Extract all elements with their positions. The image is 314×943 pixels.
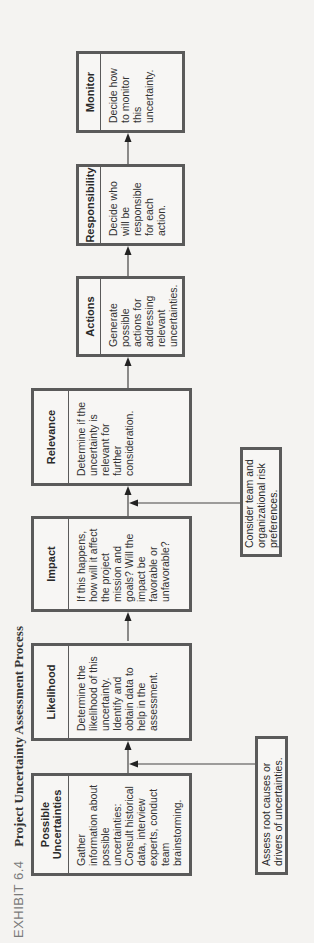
diagram-canvas: EXHIBIT 6.4 Project Uncertainty Assessme…	[0, 0, 314, 943]
arrowhead-6	[125, 133, 132, 142]
input-arrowhead-root-causes	[129, 761, 138, 768]
step-monitor: Monitor Decide how to monitor this uncer…	[76, 51, 185, 133]
arrowhead-2	[125, 612, 132, 621]
input-arrowhead-risk-preferences	[129, 500, 138, 507]
step-description: Determine the likelihood of this uncerta…	[69, 646, 159, 738]
step-description: Determine if the uncertainty is relevant…	[69, 391, 135, 483]
step-impact: Impact If this happens, how will it affe…	[31, 516, 192, 612]
input-root-causes: Assess root causes or drivers of uncerta…	[255, 736, 288, 875]
step-description: Decide who will be responsible for each …	[101, 167, 167, 243]
input-text: Consider team and organizational risk pr…	[243, 456, 279, 548]
step-heading: Responsibility	[79, 167, 101, 243]
step-heading: Impact	[34, 519, 69, 609]
step-description: Gather information about possible uncert…	[69, 776, 183, 873]
step-description: Generate possible actions for addressing…	[101, 279, 179, 354]
step-description: If this happens, how will it affect the …	[69, 519, 171, 609]
step-possible-uncertainties: Possible Uncertainties Gather informatio…	[31, 773, 192, 876]
step-heading: Monitor	[79, 54, 101, 130]
input-text: Assess root causes or drivers of uncerta…	[260, 745, 284, 866]
input-risk-preferences: Consider team and organizational risk pr…	[240, 447, 282, 557]
arrowhead-5	[125, 246, 132, 255]
step-likelihood: Likelihood Determine the likelihood of t…	[31, 643, 192, 741]
arrowhead-1	[125, 741, 132, 750]
arrowhead-4	[125, 357, 132, 366]
step-heading: Possible Uncertainties	[34, 776, 69, 873]
step-heading: Actions	[79, 279, 101, 354]
step-responsibility: Responsibility Decide who will be respon…	[76, 164, 185, 246]
step-actions: Actions Generate possible actions for ad…	[76, 276, 185, 357]
arrowhead-3	[125, 486, 132, 495]
step-heading: Likelihood	[34, 646, 69, 738]
step-relevance: Relevance Determine if the uncertainty i…	[31, 388, 192, 486]
step-description: Decide how to monitor this uncertainty.	[101, 54, 155, 130]
step-heading: Relevance	[34, 391, 69, 483]
